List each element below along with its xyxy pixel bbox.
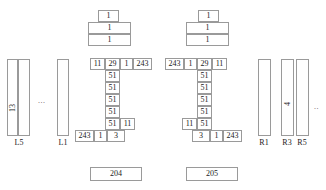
tree-right-bottom-cell-0: 3 bbox=[192, 130, 210, 142]
tree-left-top-box-3: 1 bbox=[88, 34, 131, 46]
tree-right-top-box-1: 1 bbox=[198, 10, 219, 22]
tree-left-spine-cell-2: 51 bbox=[105, 94, 120, 106]
tree-left-spine-cell-0: 51 bbox=[105, 70, 120, 82]
tree-left-spine-cell-3: 51 bbox=[105, 106, 120, 118]
tree-right-header-cell-2: 29 bbox=[197, 58, 212, 70]
left-bar-l5-value: 13 bbox=[9, 98, 17, 118]
tree-left-spine-cell-4: 51 bbox=[105, 118, 120, 130]
tree-right-footer-box: 205 bbox=[186, 167, 238, 181]
tree-right-spine-cell-4: 51 bbox=[197, 118, 212, 130]
tree-left-top-box-2: 1 bbox=[88, 22, 131, 34]
tree-left-spine-side-cell: 11 bbox=[120, 118, 135, 130]
tree-right-spine-side-cell: 11 bbox=[182, 118, 197, 130]
tree-right-spine-cell-2: 51 bbox=[197, 94, 212, 106]
left-group-ellipsis: ... bbox=[38, 97, 46, 105]
tree-left-bottom-cell-0: 243 bbox=[75, 130, 94, 142]
left-bar-l1-label: L1 bbox=[52, 139, 74, 147]
tree-right-spine-cell-1: 51 bbox=[197, 82, 212, 94]
tree-right-top-box-2: 1 bbox=[186, 22, 229, 34]
tree-left-top-box-1: 1 bbox=[98, 10, 119, 22]
tree-right-header-cell-1: 1 bbox=[184, 58, 197, 70]
right-bar-r5 bbox=[296, 59, 309, 136]
tree-left-header-cell-0: 11 bbox=[90, 58, 105, 70]
right-bar-r5-label: R5 bbox=[291, 139, 313, 147]
tree-left-header-cell-3: 243 bbox=[133, 58, 152, 70]
tree-right-header-cell-0: 243 bbox=[165, 58, 184, 70]
tree-left-header-cell-2: 1 bbox=[120, 58, 133, 70]
tree-left-footer-box: 204 bbox=[90, 167, 142, 181]
right-bar-r1 bbox=[258, 59, 271, 136]
right-bar-r1-label: R1 bbox=[253, 139, 275, 147]
tree-left-spine-cell-1: 51 bbox=[105, 82, 120, 94]
left-bar-l5-label: L5 bbox=[8, 139, 30, 147]
tree-left-bottom-cell-2: 3 bbox=[107, 130, 125, 142]
tree-right-top-box-3: 1 bbox=[186, 34, 229, 46]
left-bar-l1 bbox=[57, 59, 69, 136]
left-bar-l5-inner bbox=[18, 59, 30, 136]
tree-right-header-cell-3: 11 bbox=[212, 58, 227, 70]
right-group-ellipsis: .. bbox=[314, 103, 319, 111]
right-bar-r3-value: 4 bbox=[284, 94, 292, 114]
diagram-canvas: 13 L5 ... L1 1 1 1 11 29 1 243 51 51 51 … bbox=[0, 0, 326, 190]
tree-left-header-cell-1: 29 bbox=[105, 58, 120, 70]
tree-right-bottom-cell-1: 1 bbox=[210, 130, 223, 142]
tree-right-bottom-cell-2: 243 bbox=[223, 130, 242, 142]
tree-right-spine-cell-3: 51 bbox=[197, 106, 212, 118]
tree-right-spine-cell-0: 51 bbox=[197, 70, 212, 82]
tree-left-bottom-cell-1: 1 bbox=[94, 130, 107, 142]
